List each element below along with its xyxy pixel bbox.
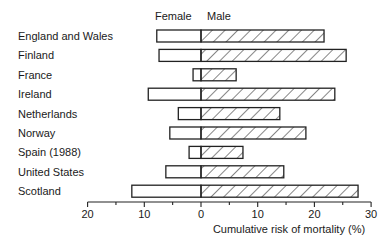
bar-row: England and Wales — [18, 30, 324, 42]
female-bar — [132, 185, 201, 197]
category-label: France — [18, 69, 52, 81]
female-bar — [159, 49, 201, 61]
male-bar — [201, 49, 346, 61]
bar-row: Norway — [18, 127, 306, 139]
category-label: Netherlands — [18, 108, 78, 120]
x-tick-label: 10 — [138, 208, 150, 220]
category-label: Scotland — [18, 185, 61, 197]
female-bar — [166, 166, 201, 178]
x-axis-label: Cumulative risk of mortality (%) — [213, 223, 365, 235]
male-bar — [201, 166, 284, 178]
bar-row: Spain (1988) — [18, 146, 243, 158]
x-tick-label: 20 — [308, 208, 320, 220]
legend-female: Female — [155, 10, 192, 22]
male-bar — [201, 69, 236, 81]
x-axis: 20100102030 — [81, 202, 377, 220]
male-bar — [201, 30, 324, 42]
category-label: Finland — [18, 49, 54, 61]
male-bar — [201, 108, 280, 120]
category-label: Spain (1988) — [18, 146, 81, 158]
bar-row: United States — [18, 166, 284, 178]
male-bar — [201, 146, 243, 158]
category-label: England and Wales — [18, 30, 113, 42]
male-bar — [201, 185, 358, 197]
category-label: Norway — [18, 127, 56, 139]
mortality-chart: Female Male England and WalesFinlandFran… — [0, 0, 391, 246]
female-bar — [170, 127, 201, 139]
category-label: Ireland — [18, 88, 52, 100]
bars-group: England and WalesFinlandFranceIrelandNet… — [18, 30, 358, 197]
bar-row: Ireland — [18, 88, 335, 100]
category-label: United States — [18, 166, 85, 178]
x-tick-label: 10 — [252, 208, 264, 220]
female-bar — [193, 69, 201, 81]
female-bar — [189, 146, 201, 158]
legend-male: Male — [207, 10, 231, 22]
x-tick-label: 0 — [198, 208, 204, 220]
female-bar — [178, 108, 201, 120]
male-bar — [201, 88, 335, 100]
female-bar — [157, 30, 201, 42]
bar-row: Netherlands — [18, 108, 280, 120]
bar-row: Finland — [18, 49, 346, 61]
bar-row: France — [18, 69, 236, 81]
bar-row: Scotland — [18, 185, 358, 197]
x-tick-label: 30 — [365, 208, 377, 220]
x-tick-label: 20 — [81, 208, 93, 220]
female-bar — [148, 88, 201, 100]
male-bar — [201, 127, 306, 139]
